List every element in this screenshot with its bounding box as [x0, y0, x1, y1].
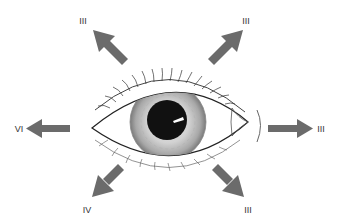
label-left: VI: [15, 124, 24, 134]
eye-illustration: [92, 68, 261, 171]
label-down-left: IV: [83, 205, 92, 215]
label-down-right: III: [244, 205, 252, 215]
eye-movement-diagram: III III VI III IV III: [0, 0, 338, 224]
lid-curve: [257, 110, 261, 142]
label-up-right: III: [242, 16, 250, 26]
arrow-left: [26, 119, 70, 138]
arrow-down-left: [92, 164, 124, 197]
arrow-up-right: [208, 30, 243, 65]
label-right: III: [317, 124, 325, 134]
arrow-right: [268, 119, 313, 138]
arrow-down-right: [212, 164, 244, 197]
label-up-left: III: [79, 16, 87, 26]
arrow-up-left: [93, 30, 128, 65]
